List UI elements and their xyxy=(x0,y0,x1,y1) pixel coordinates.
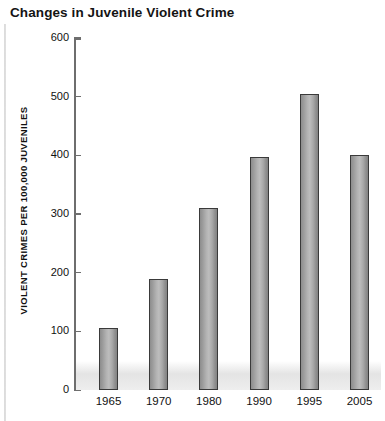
bar-1980 xyxy=(199,208,218,390)
bar-1990 xyxy=(250,157,269,390)
bar-1965 xyxy=(99,328,118,390)
x-axis-label-2005: 2005 xyxy=(330,395,385,407)
chart-plot-area: VIOLENT CRIMES PER 100,000 JUVENILES 010… xyxy=(0,0,385,421)
bar-1970 xyxy=(149,279,168,390)
bar-1995 xyxy=(300,94,319,390)
bar-2005 xyxy=(350,155,369,390)
bar-series xyxy=(0,0,385,421)
